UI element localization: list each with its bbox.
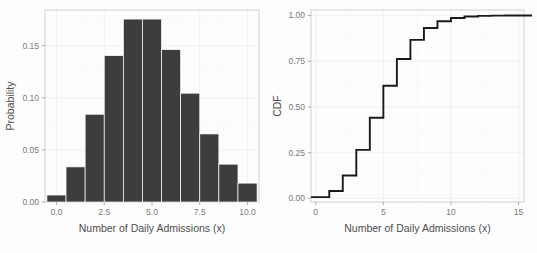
pmf-chart-panel: 0.02.55.07.510.0 0.000.050.100.15 Number…: [0, 0, 268, 253]
pmf-bar: [200, 134, 219, 202]
pmf-bar: [238, 183, 257, 202]
cdf-chart-svg: 051015 0.000.250.500.751.00 Number of Da…: [268, 0, 537, 253]
pmf-bar: [162, 50, 181, 202]
pmf-bar: [104, 56, 123, 202]
cdf-step-line: [311, 16, 532, 198]
pmf-x-axis-title: Number of Daily Admissions (x): [79, 222, 225, 234]
cdf-grid-minor: [311, 10, 524, 202]
cdf-y-tick-label: 0.25: [288, 148, 305, 158]
cdf-y-tick-label: 1.00: [288, 10, 305, 20]
cdf-y-tick-label: 0.75: [288, 56, 305, 66]
pmf-bar: [47, 195, 66, 202]
pmf-bar: [66, 167, 85, 202]
pmf-x-tick-label: 7.5: [194, 207, 206, 217]
pmf-y-tick-label: 0.15: [22, 41, 39, 51]
pmf-y-tick-labels: 0.000.050.100.15: [22, 41, 39, 207]
pmf-x-tick-label: 2.5: [98, 207, 110, 217]
cdf-y-tick-label: 0.50: [288, 102, 305, 112]
cdf-x-tick-labels: 051015: [313, 207, 523, 217]
figure-container: 0.02.55.07.510.0 0.000.050.100.15 Number…: [0, 0, 537, 253]
cdf-y-tick-label: 0.00: [288, 193, 305, 203]
cdf-x-tick-label: 0: [313, 207, 318, 217]
cdf-tick-marks: [308, 15, 519, 205]
pmf-chart-svg: 0.02.55.07.510.0 0.000.050.100.15 Number…: [0, 0, 268, 253]
pmf-y-axis-title: Probability: [4, 81, 16, 131]
cdf-panel-border: [311, 10, 524, 202]
pmf-x-tick-label: 0.0: [51, 207, 63, 217]
pmf-x-tick-label: 10.0: [239, 207, 256, 217]
pmf-bar: [85, 114, 104, 202]
pmf-bar: [219, 164, 238, 202]
cdf-x-axis-title: Number of Daily Admissions (x): [344, 222, 490, 234]
cdf-chart-panel: 051015 0.000.250.500.751.00 Number of Da…: [268, 0, 537, 253]
cdf-x-tick-label: 15: [514, 207, 524, 217]
pmf-bar: [123, 19, 142, 202]
cdf-y-axis-title: CDF: [271, 95, 283, 117]
pmf-y-tick-label: 0.05: [22, 145, 39, 155]
pmf-y-tick-label: 0.10: [22, 93, 39, 103]
cdf-grid-major: [311, 10, 524, 202]
cdf-x-tick-label: 10: [446, 207, 456, 217]
pmf-bars: [47, 19, 257, 202]
cdf-y-tick-labels: 0.000.250.500.751.00: [288, 10, 305, 203]
pmf-bar: [142, 19, 161, 202]
pmf-x-tick-label: 5.0: [146, 207, 158, 217]
cdf-x-tick-label: 5: [381, 207, 386, 217]
pmf-bar: [181, 93, 200, 202]
pmf-x-tick-labels: 0.02.55.07.510.0: [51, 207, 257, 217]
pmf-y-tick-label: 0.00: [22, 197, 39, 207]
